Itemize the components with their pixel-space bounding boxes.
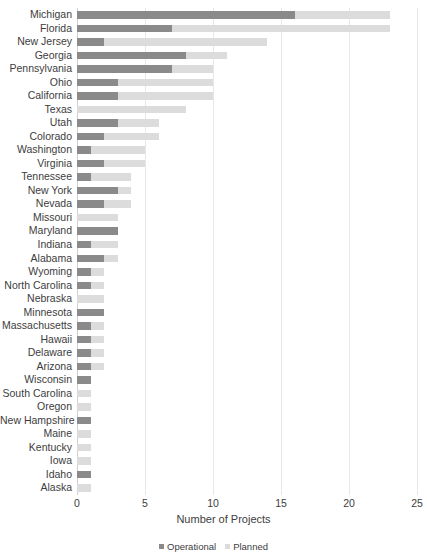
bar-row[interactable] xyxy=(77,441,417,455)
stacked-bar[interactable] xyxy=(77,241,118,249)
stacked-bar[interactable] xyxy=(77,65,213,73)
bar-segment-operational[interactable] xyxy=(77,417,91,425)
bar-row[interactable] xyxy=(77,414,417,428)
stacked-bar[interactable] xyxy=(77,336,104,344)
bar-segment-planned[interactable] xyxy=(91,241,118,249)
bar-segment-planned[interactable] xyxy=(295,11,390,19)
bar-segment-operational[interactable] xyxy=(77,79,118,87)
bar-segment-planned[interactable] xyxy=(91,349,105,357)
stacked-bar[interactable] xyxy=(77,484,91,492)
bar-row[interactable] xyxy=(77,157,417,171)
bar-row[interactable] xyxy=(77,387,417,401)
bar-segment-planned[interactable] xyxy=(77,457,91,465)
bar-segment-planned[interactable] xyxy=(91,322,105,330)
bar-segment-operational[interactable] xyxy=(77,52,186,60)
bar-row[interactable] xyxy=(77,373,417,387)
stacked-bar[interactable] xyxy=(77,363,104,371)
bar-row[interactable] xyxy=(77,35,417,49)
bar-segment-planned[interactable] xyxy=(104,38,267,46)
stacked-bar[interactable] xyxy=(77,173,131,181)
bar-row[interactable] xyxy=(77,279,417,293)
bar-segment-planned[interactable] xyxy=(77,106,186,114)
bar-row[interactable] xyxy=(77,346,417,360)
bar-segment-operational[interactable] xyxy=(77,363,91,371)
stacked-bar[interactable] xyxy=(77,200,131,208)
bar-row[interactable] xyxy=(77,62,417,76)
bar-segment-operational[interactable] xyxy=(77,11,295,19)
bar-segment-operational[interactable] xyxy=(77,241,91,249)
bar-row[interactable] xyxy=(77,427,417,441)
bar-segment-operational[interactable] xyxy=(77,92,118,100)
stacked-bar[interactable] xyxy=(77,255,118,263)
bar-row[interactable] xyxy=(77,89,417,103)
bar-segment-operational[interactable] xyxy=(77,119,118,127)
bar-segment-planned[interactable] xyxy=(186,52,227,60)
bar-row[interactable] xyxy=(77,224,417,238)
stacked-bar[interactable] xyxy=(77,376,91,384)
stacked-bar[interactable] xyxy=(77,430,91,438)
bar-row[interactable] xyxy=(77,197,417,211)
bar-segment-planned[interactable] xyxy=(91,336,105,344)
bar-segment-planned[interactable] xyxy=(118,79,213,87)
bar-segment-operational[interactable] xyxy=(77,187,118,195)
stacked-bar[interactable] xyxy=(77,309,104,317)
bar-segment-operational[interactable] xyxy=(77,25,172,33)
bar-segment-operational[interactable] xyxy=(77,65,172,73)
stacked-bar[interactable] xyxy=(77,403,91,411)
stacked-bar[interactable] xyxy=(77,444,91,452)
bar-segment-operational[interactable] xyxy=(77,38,104,46)
bar-segment-planned[interactable] xyxy=(77,484,91,492)
bar-row[interactable] xyxy=(77,265,417,279)
bar-segment-planned[interactable] xyxy=(91,363,105,371)
bar-segment-planned[interactable] xyxy=(104,160,145,168)
bar-row[interactable] xyxy=(77,292,417,306)
bar-segment-planned[interactable] xyxy=(77,403,91,411)
bar-row[interactable] xyxy=(77,306,417,320)
bar-segment-planned[interactable] xyxy=(118,92,213,100)
stacked-bar[interactable] xyxy=(77,160,145,168)
bar-segment-planned[interactable] xyxy=(77,444,91,452)
stacked-bar[interactable] xyxy=(77,92,213,100)
bar-segment-operational[interactable] xyxy=(77,173,91,181)
bar-segment-operational[interactable] xyxy=(77,255,104,263)
bar-row[interactable] xyxy=(77,130,417,144)
bar-segment-operational[interactable] xyxy=(77,268,91,276)
stacked-bar[interactable] xyxy=(77,390,91,398)
bar-row[interactable] xyxy=(77,116,417,130)
bar-segment-planned[interactable] xyxy=(91,146,145,154)
bar-segment-planned[interactable] xyxy=(91,173,132,181)
bar-segment-operational[interactable] xyxy=(77,133,104,141)
bar-row[interactable] xyxy=(77,8,417,22)
bar-segment-planned[interactable] xyxy=(172,25,390,33)
stacked-bar[interactable] xyxy=(77,295,104,303)
stacked-bar[interactable] xyxy=(77,146,145,154)
stacked-bar[interactable] xyxy=(77,52,227,60)
bar-segment-planned[interactable] xyxy=(104,133,158,141)
bar-segment-planned[interactable] xyxy=(77,295,104,303)
bar-row[interactable] xyxy=(77,454,417,468)
bar-row[interactable] xyxy=(77,211,417,225)
bar-segment-operational[interactable] xyxy=(77,471,91,479)
stacked-bar[interactable] xyxy=(77,25,390,33)
bar-row[interactable] xyxy=(77,252,417,266)
bar-segment-operational[interactable] xyxy=(77,322,91,330)
bar-segment-planned[interactable] xyxy=(77,390,91,398)
bar-segment-planned[interactable] xyxy=(104,255,118,263)
stacked-bar[interactable] xyxy=(77,282,104,290)
bar-row[interactable] xyxy=(77,76,417,90)
bar-segment-planned[interactable] xyxy=(118,119,159,127)
bar-row[interactable] xyxy=(77,103,417,117)
bar-segment-planned[interactable] xyxy=(172,65,213,73)
bar-row[interactable] xyxy=(77,184,417,198)
bar-segment-planned[interactable] xyxy=(118,187,132,195)
bar-segment-operational[interactable] xyxy=(77,336,91,344)
bar-row[interactable] xyxy=(77,319,417,333)
bar-row[interactable] xyxy=(77,468,417,482)
stacked-bar[interactable] xyxy=(77,38,267,46)
bar-row[interactable] xyxy=(77,170,417,184)
bar-row[interactable] xyxy=(77,481,417,495)
stacked-bar[interactable] xyxy=(77,417,91,425)
bar-row[interactable] xyxy=(77,143,417,157)
bar-segment-operational[interactable] xyxy=(77,200,104,208)
bar-segment-planned[interactable] xyxy=(77,430,91,438)
